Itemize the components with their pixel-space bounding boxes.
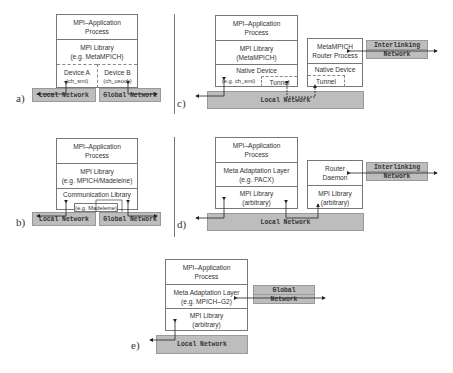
connection-arrows xyxy=(0,0,453,373)
